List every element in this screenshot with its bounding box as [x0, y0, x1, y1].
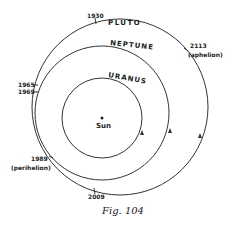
year-2009-label: 2009 — [88, 193, 105, 200]
perihelion-label: (perihelion) — [11, 164, 51, 172]
sun-label: Sun — [96, 122, 111, 130]
year-2113-label: 2113 — [190, 42, 207, 49]
year-1965-label: 1965 — [18, 81, 35, 88]
pluto-label: PLUTO — [108, 19, 141, 27]
neptune-label: NEPTUNE — [110, 39, 154, 52]
pluto-direction-arrow-icon — [198, 133, 202, 138]
aphelion-label: (aphelion) — [188, 51, 223, 59]
neptune-direction-arrow-icon — [168, 128, 172, 133]
uranus-label: URANUS — [108, 71, 148, 86]
sun-dot-icon — [101, 117, 104, 120]
year-1969-label: 1969 — [18, 88, 35, 95]
orbit-diagram: Sun PLUTO NEPTUNE URANUS 1930 1965 1969 … — [0, 0, 241, 228]
neptune-orbit — [35, 46, 169, 180]
uranus-direction-arrow-icon — [140, 130, 144, 135]
year-1930-label: 1930 — [87, 12, 104, 19]
figure-caption: Fig. 104 — [101, 205, 144, 216]
year-1989-label: 1989 — [31, 155, 48, 162]
